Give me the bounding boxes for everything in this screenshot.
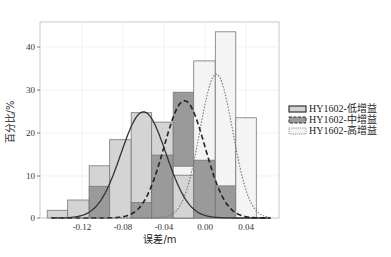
histogram-bar (47, 210, 67, 218)
y-tick-labels: 0 10 20 30 40 (26, 42, 36, 223)
x-tick: -0.12 (73, 222, 92, 232)
x-tick: 0.04 (238, 222, 254, 232)
x-tick-labels: -0.12 -0.08 -0.04 0.00 0.04 (73, 222, 255, 232)
x-tick: 0.00 (197, 222, 213, 232)
legend: HY1602-低增益 HY1602-中增益 HY1602-高增益 (289, 102, 377, 136)
legend-item-low: HY1602-低增益 (289, 102, 377, 114)
histogram-chart: 0 10 20 30 40 -0.12 -0.08 -0.04 0.00 0.0… (0, 0, 391, 257)
y-tick: 0 (31, 213, 36, 223)
histogram-bar (236, 118, 256, 218)
histogram-bar (215, 186, 236, 218)
histogram-bar (131, 203, 152, 218)
y-tick: 20 (26, 128, 36, 138)
x-tick: -0.04 (155, 222, 174, 232)
x-tick: -0.08 (114, 222, 133, 232)
legend-item-high: HY1602-高增益 (289, 124, 377, 136)
histogram-bar (68, 200, 90, 218)
legend-label: HY1602-中增益 (309, 113, 377, 125)
axis-ticks (37, 47, 40, 218)
legend-label: HY1602-低增益 (309, 102, 377, 114)
y-tick: 30 (26, 85, 36, 95)
y-tick: 40 (26, 42, 36, 52)
x-axis-label: 误差/m (143, 233, 176, 245)
legend-item-mid: HY1602-中增益 (289, 113, 377, 125)
y-axis-label: 百分比/% (5, 101, 16, 144)
y-tick: 10 (26, 171, 36, 181)
histogram-bar (110, 140, 132, 218)
legend-label: HY1602-高增益 (309, 124, 377, 136)
